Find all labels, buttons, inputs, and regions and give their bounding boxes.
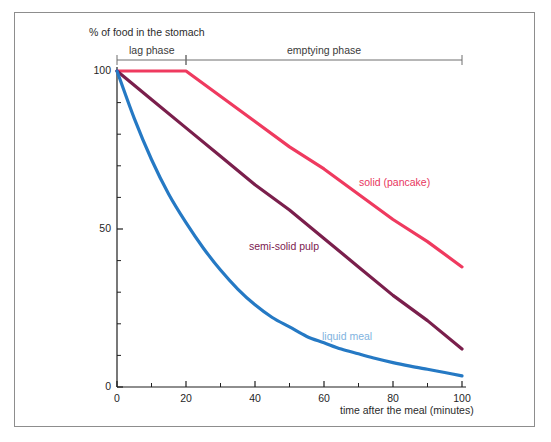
- x-tick-label: 60: [315, 392, 333, 404]
- y-tick-label: 100: [85, 64, 111, 76]
- emptying-phase-label: emptying phase: [287, 44, 361, 56]
- chart-figure: % of food in the stomach lag phase empty…: [0, 0, 551, 442]
- x-tick-label: 80: [384, 392, 402, 404]
- y-axis-title: % of food in the stomach: [89, 26, 205, 38]
- lag-phase-label: lag phase: [129, 44, 175, 56]
- series-label-solid: solid (pancake): [359, 176, 430, 188]
- series-line-semi-solid-pulp: [117, 71, 462, 349]
- x-tick-label: 0: [108, 392, 126, 404]
- y-tick-label: 0: [85, 380, 111, 392]
- x-tick-label: 20: [177, 392, 195, 404]
- series-label-semi-solid: semi-solid pulp: [249, 240, 319, 252]
- chart-plot-area: [0, 0, 551, 442]
- series-lines-layer: [117, 71, 462, 376]
- phase-bracket-layer: [117, 55, 462, 65]
- y-tick-label: 50: [85, 222, 111, 234]
- series-line-solid-pancake: [117, 71, 462, 267]
- x-tick-label: 100: [453, 392, 471, 404]
- x-axis-title: time after the meal (minutes): [340, 404, 474, 416]
- series-line-liquid-meal: [117, 71, 462, 376]
- series-label-liquid: liquid meal: [322, 330, 372, 342]
- x-tick-label: 40: [246, 392, 264, 404]
